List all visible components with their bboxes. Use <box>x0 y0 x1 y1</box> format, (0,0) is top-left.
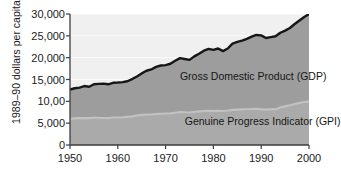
x-tick-label: 1970 <box>153 152 177 164</box>
x-tick-label: 1990 <box>249 152 273 164</box>
x-tick-label: 1960 <box>106 152 130 164</box>
x-tick-label: 2000 <box>297 152 321 164</box>
x-tick-label: 1950 <box>58 152 82 164</box>
gpi-series-annotation: Genuine Progress Indicator (GPI) <box>185 115 341 127</box>
x-tick-label: 1980 <box>201 152 225 164</box>
gdp-series-annotation: Gross Domestic Product (GDP) <box>180 70 326 82</box>
